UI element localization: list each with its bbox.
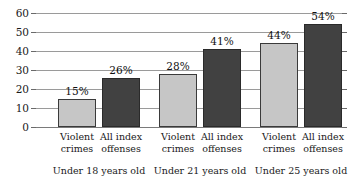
ytick-label-10: 10 [16, 103, 29, 114]
bar-all-index-under21[interactable] [203, 49, 241, 127]
category-label-line2: offenses [100, 143, 142, 155]
gridline-0-baseline [36, 127, 342, 128]
category-label-line1: Violent [262, 131, 296, 143]
category-label-violent-under18: Violent crimes [60, 131, 94, 154]
bar-value-label-all-index-under21: 41% [210, 36, 233, 47]
ytick-label-60: 60 [16, 8, 29, 19]
ytick-right-30 [342, 70, 347, 71]
ytick-right-50 [342, 32, 347, 33]
bar-chart: 60 50 40 30 20 10 0 15% 26% [0, 0, 358, 188]
gridline-60 [36, 13, 342, 14]
category-label-line2: crimes [60, 143, 94, 155]
category-label-line1: Violent [60, 131, 94, 143]
ytick-30 [31, 70, 36, 71]
category-label-line1: All index [100, 131, 142, 143]
ytick-40 [31, 51, 36, 52]
bar-value-label-all-index-under25: 54% [311, 11, 334, 22]
ytick-right-20 [342, 89, 347, 90]
category-label-line2: offenses [302, 143, 344, 155]
category-label-line1: All index [302, 131, 344, 143]
category-label-line2: offenses [201, 143, 243, 155]
ytick-right-60 [342, 13, 347, 14]
ytick-10 [31, 108, 36, 109]
ytick-20 [31, 89, 36, 90]
bar-violent-under18[interactable] [58, 99, 96, 128]
bar-all-index-under18[interactable] [102, 78, 140, 127]
category-label-line2: crimes [262, 143, 296, 155]
gridline-50 [36, 32, 342, 33]
category-label-line1: All index [201, 131, 243, 143]
category-label-all-index-under25: All index offenses [302, 131, 344, 154]
bar-value-label-violent-under25: 44% [267, 30, 290, 41]
bar-value-label-all-index-under18: 26% [109, 65, 132, 76]
category-label-all-index-under21: All index offenses [201, 131, 243, 154]
bar-all-index-under25[interactable] [304, 24, 342, 127]
ytick-label-40: 40 [16, 46, 29, 57]
ytick-right-40 [342, 51, 347, 52]
plot-area: 60 50 40 30 20 10 0 15% 26% [36, 13, 342, 127]
ytick-label-0: 0 [22, 122, 29, 133]
ytick-right-0 [342, 127, 347, 128]
category-label-violent-under21: Violent crimes [161, 131, 195, 154]
ytick-0 [31, 127, 36, 128]
ytick-50 [31, 32, 36, 33]
category-label-line1: Violent [161, 131, 195, 143]
category-label-line2: crimes [161, 143, 195, 155]
category-label-violent-under25: Violent crimes [262, 131, 296, 154]
group-label-under-18: Under 18 years old [53, 166, 145, 176]
group-label-under-21: Under 21 years old [154, 166, 246, 176]
group-label-under-25: Under 25 years old [255, 166, 347, 176]
category-label-all-index-under18: All index offenses [100, 131, 142, 154]
ytick-right-10 [342, 108, 347, 109]
ytick-60 [31, 13, 36, 14]
bar-value-label-violent-under18: 15% [65, 86, 88, 97]
bar-value-label-violent-under21: 28% [166, 61, 189, 72]
bar-violent-under25[interactable] [260, 43, 298, 127]
bar-violent-under21[interactable] [159, 74, 197, 127]
ytick-label-20: 20 [16, 84, 29, 95]
ytick-label-30: 30 [16, 65, 29, 76]
ytick-label-50: 50 [16, 27, 29, 38]
